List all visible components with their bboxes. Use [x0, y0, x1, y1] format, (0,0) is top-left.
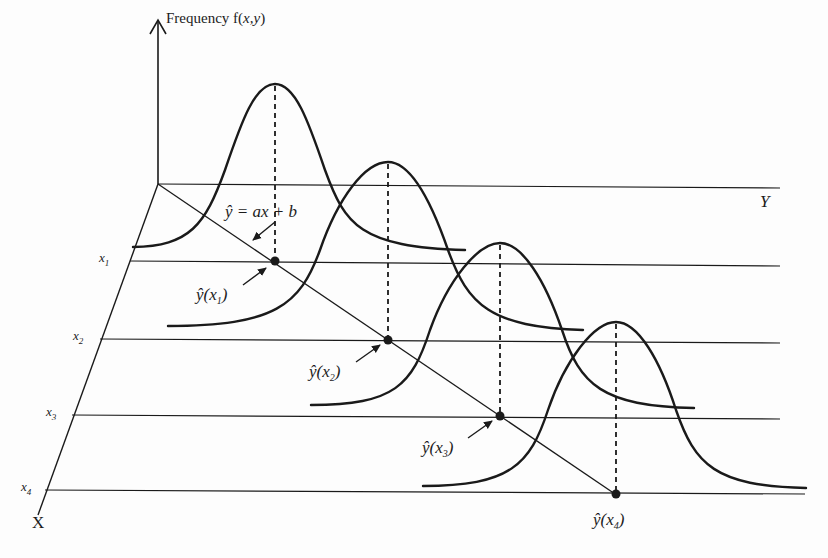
regression-equation-label: ŷ = ax + b: [225, 202, 297, 222]
yhat-x1-label: ŷ(x1): [196, 285, 227, 306]
x1-tick-label: x1: [99, 250, 109, 268]
yhat1-arrow: [243, 268, 266, 285]
point-x3: [496, 412, 505, 421]
x3-tick-label: x3: [46, 404, 56, 422]
yhat-x4-label: ŷ(x4): [593, 510, 624, 531]
point-x1: [271, 257, 280, 266]
annotation-arrows: [243, 222, 492, 438]
frequency-axis-label: Frequency f(x,y): [166, 10, 265, 27]
diagram-canvas: [0, 0, 828, 558]
point-x2: [384, 336, 393, 345]
normal-curves: [133, 84, 806, 488]
y-axis: [158, 184, 780, 188]
peak-dashed-lines: [275, 86, 616, 494]
x4-tick-label: x4: [21, 479, 31, 497]
regression-diagram: Frequency f(x,y) Y X x1 x2 x3 x4 ŷ = ax …: [0, 0, 828, 558]
yhat3-arrow: [468, 421, 492, 438]
x-axis: [38, 184, 158, 515]
y-axis-label: Y: [760, 192, 769, 212]
frequency-axis: [150, 20, 166, 184]
point-x4: [612, 490, 621, 499]
x-axis-label: X: [32, 513, 44, 533]
yhat2-arrow: [356, 345, 380, 362]
x2-tick-label: x2: [73, 328, 83, 346]
yhat-x2-label: ŷ(x2): [309, 362, 340, 383]
yhat-x3-label: ŷ(x3): [422, 438, 453, 459]
regression-label-arrow: [253, 222, 275, 240]
